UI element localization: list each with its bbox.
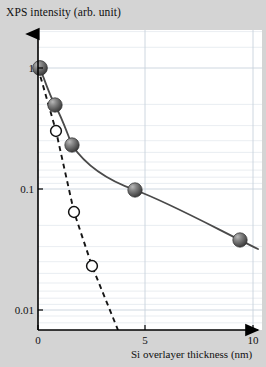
data-point-filled-2: [48, 98, 62, 112]
gridlines-vertical: [145, 30, 253, 330]
solid-series-curve: [40, 68, 258, 249]
gridlines-minor: [38, 32, 262, 323]
data-point-filled-4: [128, 183, 142, 197]
data-point-open-3: [87, 261, 98, 272]
data-point-filled-3: [65, 138, 79, 152]
data-point-open-2: [69, 207, 80, 218]
figure-canvas: XPS intensity (arb. unit) Si overlayer t…: [0, 0, 266, 367]
data-point-filled-5: [233, 233, 247, 247]
chart-plot: [0, 0, 266, 367]
filled-sphere-markers: [33, 61, 248, 248]
data-point-open-1: [51, 126, 62, 137]
